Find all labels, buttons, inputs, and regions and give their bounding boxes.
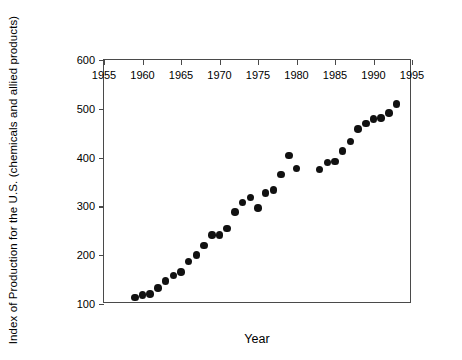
data-point [331, 158, 339, 166]
data-point [316, 166, 324, 174]
x-tick-label: 1960 [130, 69, 154, 81]
scatter-chart-figure: Index of Production for the U.S. (chemic… [0, 0, 462, 360]
y-tick-label: 400 [77, 152, 95, 164]
data-point [362, 120, 370, 128]
x-tick-mark [335, 60, 336, 65]
x-axis-title: Year [103, 332, 411, 346]
x-tick-mark [104, 60, 105, 65]
data-point [216, 231, 224, 239]
x-tick-mark [181, 60, 182, 65]
y-axis-title: Index of Production for the U.S. (chemic… [0, 0, 26, 360]
y-tick-label: 100 [77, 298, 95, 310]
x-tick-label: 1965 [169, 69, 193, 81]
data-point [200, 242, 208, 250]
data-point [270, 186, 278, 194]
x-tick-label: 1955 [92, 69, 116, 81]
data-point [347, 138, 355, 146]
x-tick-mark [412, 60, 413, 65]
data-point [223, 225, 231, 233]
y-tick-label: 600 [77, 54, 95, 66]
x-tick-label: 1985 [323, 69, 347, 81]
y-tick-mark [99, 158, 104, 159]
data-point [239, 199, 247, 207]
x-tick-mark [220, 60, 221, 65]
data-point [131, 294, 139, 302]
x-tick-mark [258, 60, 259, 65]
plot-area: 100200300400500600 195519601965197019751… [103, 59, 411, 303]
data-point [385, 109, 393, 117]
data-point [393, 100, 401, 108]
y-tick-mark [99, 109, 104, 110]
data-point [208, 231, 216, 239]
data-point [254, 204, 262, 212]
data-point [162, 277, 170, 285]
data-point [277, 171, 285, 179]
x-tick-label: 1975 [246, 69, 270, 81]
y-tick-label: 500 [77, 103, 95, 115]
data-point [324, 159, 332, 167]
y-tick-label: 200 [77, 249, 95, 261]
data-point [193, 251, 201, 259]
data-point [293, 165, 301, 173]
x-tick-label: 1970 [207, 69, 231, 81]
data-point [170, 272, 178, 280]
data-point [262, 189, 270, 197]
y-tick-mark [99, 255, 104, 256]
x-tick-mark [297, 60, 298, 65]
data-point [285, 152, 293, 160]
x-tick-mark [143, 60, 144, 65]
data-point [377, 114, 385, 122]
x-tick-mark [374, 60, 375, 65]
y-tick-mark [99, 304, 104, 305]
y-tick-label: 300 [77, 200, 95, 212]
x-tick-label: 1990 [361, 69, 385, 81]
data-point [354, 125, 362, 133]
y-tick-mark [99, 206, 104, 207]
data-point [154, 284, 162, 292]
data-point [231, 208, 239, 216]
data-point [185, 258, 193, 266]
data-point [339, 147, 347, 155]
x-tick-label: 1980 [284, 69, 308, 81]
data-point [146, 290, 154, 298]
data-point [177, 268, 185, 276]
data-point [139, 291, 147, 299]
data-point [247, 194, 255, 202]
x-tick-label: 1995 [400, 69, 424, 81]
data-point [370, 115, 378, 123]
